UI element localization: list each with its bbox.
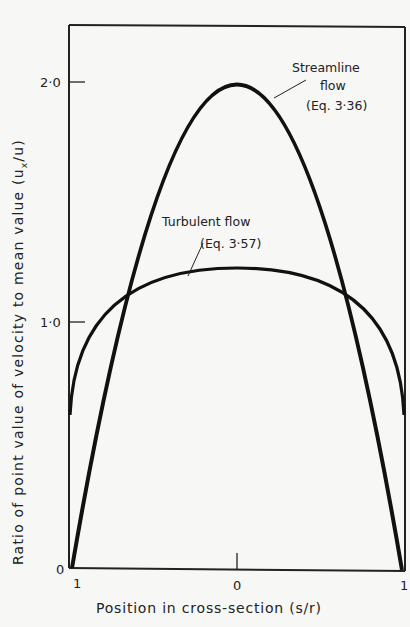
- velocity-profile-chart: Streamline flow (Eq. 3·36) Turbulent flo…: [0, 0, 410, 627]
- streamline-label-line2: flow: [320, 78, 346, 93]
- xtick-right: 1: [400, 578, 408, 593]
- x-axis-label: Position in cross-section (s/r): [96, 600, 322, 616]
- turbulent-label-line2: (Eq. 3·57): [200, 236, 261, 251]
- streamline-label-line1: Streamline: [292, 60, 360, 75]
- streamline-flow-curve: [72, 84, 402, 570]
- streamline-label-line3: (Eq. 3·36): [306, 98, 367, 113]
- axis-ticks: [69, 82, 237, 569]
- turbulent-flow-curve: [70, 268, 404, 415]
- streamline-leader-line: [274, 80, 306, 98]
- xtick-mid: 0: [233, 578, 241, 593]
- ytick-0: 0: [56, 562, 64, 577]
- turbulent-label-line1: Turbulent flow: [161, 214, 250, 229]
- ytick-1: 1·0: [40, 315, 61, 330]
- xtick-left: 1: [73, 576, 81, 591]
- ytick-2: 2·0: [40, 75, 61, 90]
- y-axis-label: Ratio of point value of velocity to mean…: [10, 139, 29, 565]
